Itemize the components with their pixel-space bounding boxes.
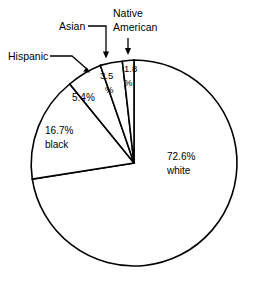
hispanic-leader bbox=[50, 56, 90, 73]
native-american-leader bbox=[125, 38, 131, 55]
native-american-arrow-icon bbox=[125, 48, 131, 55]
callout-label-hispanic: Hispanic bbox=[8, 50, 48, 62]
slice-value-asian-sym: % bbox=[105, 84, 114, 95]
callout-label-asian: Asian bbox=[59, 20, 85, 32]
slice-value-white: 72.6% bbox=[167, 151, 195, 162]
slice-name-black: black bbox=[45, 139, 69, 150]
asian-arrow-icon bbox=[103, 51, 109, 58]
slice-value-black: 16.7% bbox=[45, 125, 73, 136]
slice-value-native-american-num: 1.8 bbox=[124, 63, 137, 74]
pie-chart-canvas: Hispanic Asian Native American 1.8 % 3.5… bbox=[0, 0, 260, 292]
slice-value-native-american-sym: % bbox=[124, 77, 133, 88]
asian-leader bbox=[88, 26, 109, 59]
callout-label-native-american-line1: Native bbox=[113, 7, 143, 19]
slice-name-white: white bbox=[166, 165, 191, 176]
pie-chart-figure: Hispanic Asian Native American 1.8 % 3.5… bbox=[0, 0, 260, 292]
callout-label-native-american-line2: American bbox=[113, 21, 158, 33]
slice-value-hispanic: 5.4% bbox=[72, 92, 95, 103]
slice-value-asian-num: 3.5 bbox=[100, 70, 113, 81]
